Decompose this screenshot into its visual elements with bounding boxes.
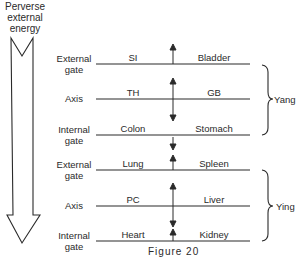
organ-label-right: Spleen [184,158,244,169]
organ-label-right: Kidney [184,229,244,240]
organ-label-right: Liver [184,194,244,205]
gate-label-line: gate [44,64,104,75]
gate-label-line: gate [44,135,104,146]
gate-label-axis: Axis [44,93,104,104]
organ-label-left: SI [103,52,163,63]
organ-label-right: Bladder [184,52,244,63]
organ-label-left: Lung [103,158,163,169]
gate-label-external: External gate [44,159,104,181]
gate-label-line: Internal [44,124,104,135]
gate-label-line: External [44,53,104,64]
gate-label-internal: Internal gate [44,124,104,146]
gate-label-line: gate [44,170,104,181]
gate-label-line: Axis [44,200,104,211]
gate-label-line: Internal [44,230,104,241]
gate-label-external: External gate [44,53,104,75]
organ-label-right: Stomach [184,123,244,134]
organ-label-left: PC [103,194,163,205]
figure-caption: Figure 20 [148,246,199,257]
gate-label-internal: Internal gate [44,230,104,252]
organ-label-left: TH [103,87,163,98]
organ-label-right: GB [184,87,244,98]
gate-label-line: Axis [44,93,104,104]
gate-label-line: External [44,159,104,170]
gate-label-line: gate [44,241,104,252]
ying-brace-icon [262,170,273,241]
organ-label-left: Heart [103,229,163,240]
organ-label-left: Colon [103,123,163,134]
group-label-ying: Ying [276,201,295,212]
gate-label-axis: Axis [44,200,104,211]
yang-brace-icon [262,65,273,135]
group-label-yang: Yang [274,94,295,105]
flow-arrows [170,44,176,241]
energy-arrow-icon [7,38,40,243]
